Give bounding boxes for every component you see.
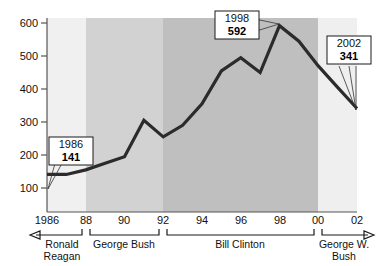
era-label-george-bush: George Bush xyxy=(93,238,155,250)
x-tick-label: 94 xyxy=(196,214,208,226)
y-tick-300: 300 xyxy=(20,116,47,128)
era-band-george-bush xyxy=(86,18,163,212)
annotation-value: 592 xyxy=(228,25,246,37)
era-shading-bands xyxy=(47,18,357,212)
bracket-george-bush xyxy=(90,229,159,235)
y-tick-500: 500 xyxy=(20,50,47,62)
y-tick-200: 200 xyxy=(20,149,47,161)
era-label-bill-clinton: Bill Clinton xyxy=(215,238,265,250)
y-axis: 100 200 300 400 500 600 xyxy=(20,17,47,212)
era-band-ronald-reagan xyxy=(47,18,86,212)
y-tick-label: 200 xyxy=(20,149,38,161)
era-label-ronald-reagan-line2: Reagan xyxy=(44,250,81,262)
bracket-bill-clinton xyxy=(167,229,314,235)
y-tick-label: 300 xyxy=(20,116,38,128)
line-chart: 100 200 300 400 500 600 xyxy=(0,0,385,266)
era-band-bill-clinton xyxy=(163,18,318,212)
y-tick-label: 600 xyxy=(20,17,38,29)
y-tick-label: 100 xyxy=(20,182,38,194)
y-tick-600: 600 xyxy=(20,17,47,29)
annotation-year: 1986 xyxy=(59,138,83,150)
x-tick-label: 02 xyxy=(351,214,363,226)
era-label-george-w-bush-line2: Bush xyxy=(332,250,356,262)
y-tick-400: 400 xyxy=(20,83,47,95)
y-tick-label: 400 xyxy=(20,83,38,95)
x-tick-label: 92 xyxy=(157,214,169,226)
era-labels: Ronald Reagan George Bush Bill Clinton G… xyxy=(44,238,369,262)
x-tick-label: 00 xyxy=(312,214,324,226)
era-label-ronald-reagan: Ronald xyxy=(45,238,78,250)
x-tick-label: 98 xyxy=(274,214,286,226)
x-tick-label: 1986 xyxy=(35,214,59,226)
chart-container: 100 200 300 400 500 600 xyxy=(0,0,385,266)
era-label-george-w-bush: George W. xyxy=(319,238,369,250)
annotation-year: 2002 xyxy=(337,37,361,49)
y-tick-label: 500 xyxy=(20,50,38,62)
annotation-value: 141 xyxy=(62,151,80,163)
x-tick-label: 96 xyxy=(235,214,247,226)
y-tick-100: 100 xyxy=(20,182,47,194)
annotation-year: 1998 xyxy=(225,12,249,24)
x-axis: 1986 88 90 92 94 96 98 00 02 xyxy=(35,212,363,226)
x-tick-label: 90 xyxy=(118,214,130,226)
annotation-value: 341 xyxy=(340,50,358,62)
x-tick-label: 88 xyxy=(80,214,92,226)
